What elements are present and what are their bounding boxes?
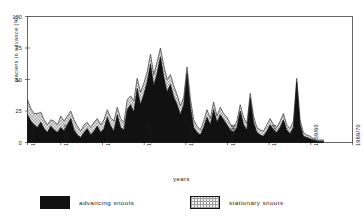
y-tick-label-75: 75 bbox=[0, 45, 22, 51]
x-tick-label-1891-92: 1891/92 bbox=[30, 124, 36, 146]
x-tick-label-1919-20: 1919/20 bbox=[146, 124, 152, 146]
legend-label-advancing: advancing snouts bbox=[79, 199, 134, 206]
legend-label-stationary: stationary snouts bbox=[229, 199, 283, 206]
chart-series-areas bbox=[28, 48, 324, 143]
x-tick-label-1929-30: 1929/30 bbox=[188, 124, 194, 146]
x-tick-label-1949-50: 1949/50 bbox=[271, 124, 277, 146]
x-tick-label-1909-10: 1909/10 bbox=[105, 124, 111, 146]
chart-figure: glaciers in advance (%) years 0255075100… bbox=[0, 0, 363, 224]
y-tick-label-25: 25 bbox=[0, 108, 22, 114]
x-tick-label-1939-40: 1939/40 bbox=[230, 124, 236, 146]
x-axis-label: years bbox=[0, 176, 363, 182]
chart-legend: advancing snouts stationary snouts bbox=[0, 196, 363, 220]
chart-plot-area bbox=[0, 0, 363, 224]
legend-swatch-stationary-icon bbox=[190, 196, 220, 209]
x-tick-label-1959-60: 1959/60 bbox=[313, 124, 319, 146]
y-tick-label-50: 50 bbox=[0, 77, 22, 83]
legend-item-advancing: advancing snouts bbox=[40, 196, 134, 209]
legend-swatch-advancing-icon bbox=[40, 196, 70, 209]
x-tick-label-1899-00: 1899/00 bbox=[63, 124, 69, 146]
x-tick-label-1969-70: 1969/70 bbox=[355, 124, 361, 146]
y-tick-label-0: 0 bbox=[0, 140, 22, 146]
y-tick-label-100: 100 bbox=[0, 14, 22, 20]
legend-item-stationary: stationary snouts bbox=[190, 196, 283, 209]
